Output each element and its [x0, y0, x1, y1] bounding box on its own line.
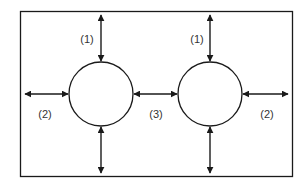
label-middle: (3)	[149, 108, 162, 120]
label-top-left: (1)	[80, 33, 93, 45]
label-top-right: (1)	[190, 33, 203, 45]
left-circle	[69, 62, 133, 126]
diagram-canvas	[0, 0, 308, 186]
label-left: (2)	[38, 108, 51, 120]
right-circle	[178, 62, 242, 126]
label-right: (2)	[260, 108, 273, 120]
